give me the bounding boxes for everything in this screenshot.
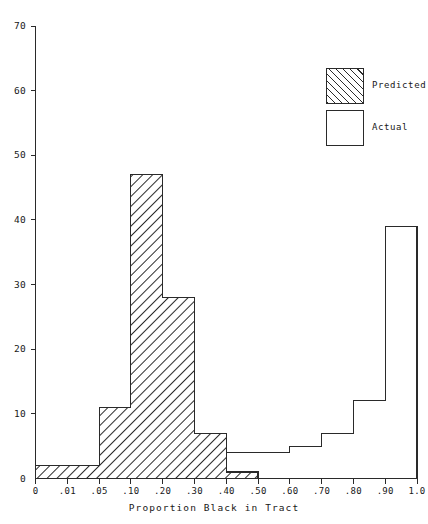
y-tick-label: 10 <box>4 408 26 419</box>
legend-label-predicted: Predicted <box>372 80 426 90</box>
histogram-figure: 010203040506070 0.01.05.10.20.30.40.50.6… <box>0 0 428 524</box>
x-axis-ticks <box>36 479 418 484</box>
y-tick-label: 60 <box>4 85 26 96</box>
y-tick-label: 20 <box>4 343 26 354</box>
x-tick-label: .01 <box>52 486 82 496</box>
x-tick-label: 1.0 <box>402 486 428 496</box>
x-tick-label: .05 <box>84 486 114 496</box>
legend-label-actual: Actual <box>372 122 408 132</box>
predicted-step-hatched <box>36 175 418 479</box>
legend-swatch-predicted <box>326 68 364 104</box>
x-tick-label: .60 <box>275 486 305 496</box>
x-tick-label: .80 <box>338 486 368 496</box>
x-tick-label: .50 <box>243 486 273 496</box>
x-tick-label: .40 <box>211 486 241 496</box>
legend-swatch-actual <box>326 110 364 146</box>
x-axis-title: Proportion Black in Tract <box>0 502 428 513</box>
x-tick-label: .90 <box>370 486 400 496</box>
x-tick-label: .30 <box>179 486 209 496</box>
y-axis-ticks <box>31 26 36 414</box>
x-tick-label: 0 <box>21 486 51 496</box>
series-predicted-hatched <box>36 175 418 479</box>
x-tick-label: .10 <box>116 486 146 496</box>
y-tick-label: 30 <box>4 279 26 290</box>
x-tick-label: .70 <box>307 486 337 496</box>
y-tick-label: 0 <box>4 473 26 484</box>
y-tick-label: 70 <box>4 20 26 31</box>
y-tick-label: 50 <box>4 149 26 160</box>
x-tick-label: .20 <box>148 486 178 496</box>
y-tick-label: 40 <box>4 214 26 225</box>
